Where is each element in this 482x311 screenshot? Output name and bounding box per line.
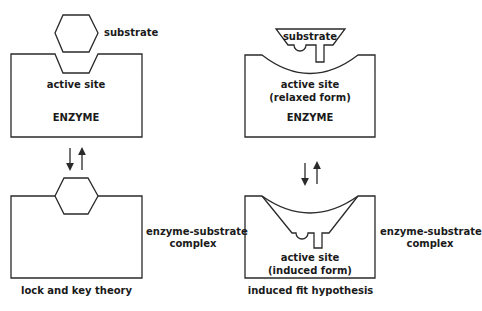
substrate-label-right: substrate (280, 31, 340, 43)
substrate-hexagon (55, 15, 98, 52)
lock-key-title: lock and key theory (11, 285, 142, 297)
substrate-label-left: substrate (104, 27, 158, 39)
bound-substrate-hexagon (55, 178, 98, 214)
induced-site-label-1: active site (260, 252, 360, 264)
active-site-label-right-2: (relaxed form) (260, 92, 360, 104)
complex-label-left-2: complex (146, 238, 240, 250)
complex-label-right-2: complex (380, 238, 480, 250)
enzyme-lock-shape (11, 54, 142, 137)
induced-active-site (262, 196, 358, 248)
enzyme-label-left: ENZYME (36, 112, 116, 124)
induced-fit-title: induced fit hypothesis (245, 285, 376, 297)
complex-label-left-1: enzyme-substrate (146, 226, 240, 238)
active-site-label-right-1: active site (260, 79, 360, 91)
substrate-curve-top (262, 196, 358, 213)
active-site-label-left: active site (36, 79, 116, 91)
induced-site-label-2: (induced form) (260, 265, 360, 277)
enzyme-diagram (0, 0, 482, 311)
enzyme-label-right: ENZYME (270, 112, 350, 124)
complex-label-right-1: enzyme-substrate (380, 226, 480, 238)
enzyme-substrate-complex-lock (11, 196, 142, 278)
